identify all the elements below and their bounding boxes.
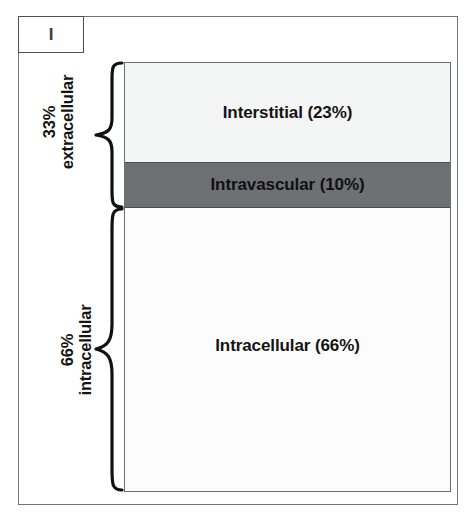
curly-brace-intracellular-icon	[92, 206, 124, 494]
compartment-intravascular-label: Intravascular (10%)	[210, 175, 364, 195]
side-label-extracellular: 33% extracellular	[37, 67, 81, 177]
figure-root: I 33% extracellular 66% intracellular In…	[0, 0, 472, 519]
side-label-extracellular-percent: 33%	[41, 106, 59, 138]
compartment-stack-chart: Interstitial (23%) Intravascular (10%) I…	[124, 62, 451, 492]
compartment-intracellular: Intracellular (66%)	[125, 208, 450, 491]
compartment-interstitial-label: Interstitial (23%)	[223, 103, 353, 123]
curly-brace-extracellular-icon	[92, 60, 124, 210]
compartment-intravascular: Intravascular (10%)	[125, 162, 450, 208]
panel-label-text: I	[49, 26, 54, 43]
side-label-intracellular-percent: 66%	[59, 334, 77, 366]
compartment-intracellular-label: Intracellular (66%)	[215, 336, 360, 356]
side-label-extracellular-name: extracellular	[59, 75, 77, 170]
panel-label-box: I	[18, 16, 84, 53]
compartment-interstitial: Interstitial (23%)	[125, 63, 450, 162]
